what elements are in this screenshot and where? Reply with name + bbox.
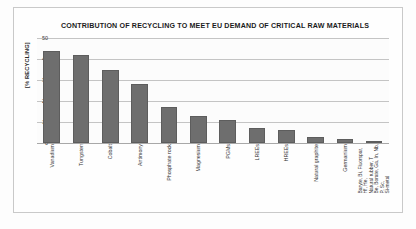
bar-slot <box>213 38 242 143</box>
bar-slot <box>330 38 359 143</box>
x-axis-labels: VanadiumTungstenCobaltAntimonyPhosphate … <box>37 144 389 226</box>
x-label-slot: Cobalt <box>96 144 125 226</box>
bar-slot <box>301 38 330 143</box>
bar-slot <box>360 38 389 143</box>
bar[interactable] <box>278 130 294 143</box>
x-tick-label: Natural graphite <box>313 144 319 182</box>
x-label-slot: Natural graphite <box>301 144 330 226</box>
plot-area: 01020304050 <box>37 38 389 143</box>
x-tick-label: Magnesium <box>195 144 201 171</box>
bar[interactable] <box>307 137 323 143</box>
bar[interactable] <box>249 128 265 143</box>
x-tick-label: Cobalt <box>107 144 113 159</box>
x-label-slot: Tungsten <box>66 144 95 226</box>
bar-slot <box>184 38 213 143</box>
x-label-slot: Antimony <box>125 144 154 226</box>
x-label-slot: Vanadium <box>37 144 66 226</box>
x-label-slot: PGMs <box>213 144 242 226</box>
x-label-slot: HREEs <box>272 144 301 226</box>
x-tick-label: Phosphate rock <box>166 144 172 181</box>
bar-slot <box>154 38 183 143</box>
x-tick-label: LREEs <box>254 144 260 161</box>
bar-slot <box>125 38 154 143</box>
x-tick-label: HREEs <box>283 144 289 161</box>
bar[interactable] <box>73 55 89 143</box>
bar-slot <box>96 38 125 143</box>
bar[interactable] <box>190 116 206 143</box>
x-label-slot: Phosphate rock <box>154 144 183 226</box>
x-tick-label: Germanium <box>342 144 348 172</box>
x-label-slot: Germanium <box>330 144 359 226</box>
chart-title: CONTRIBUTION OF RECYCLING TO MEET EU DEM… <box>30 22 400 31</box>
bar-series <box>37 38 389 143</box>
bar[interactable] <box>102 70 118 144</box>
bar-slot <box>272 38 301 143</box>
bar-slot <box>242 38 271 143</box>
bar-slot <box>37 38 66 143</box>
bar[interactable] <box>43 51 59 143</box>
bar[interactable] <box>337 139 353 143</box>
bar-slot <box>66 38 95 143</box>
x-tick-label: Vanadium <box>49 144 55 167</box>
chart-page: CONTRIBUTION OF RECYCLING TO MEET EU DEM… <box>0 0 416 229</box>
x-tick-label: Baryte, Bi, Fluorspar, Hf, He, Natural r… <box>358 144 390 193</box>
x-label-slot: Magnesium <box>184 144 213 226</box>
x-label-slot: Baryte, Bi, Fluorspar, Hf, He, Natural r… <box>360 144 389 226</box>
bar[interactable] <box>161 107 177 143</box>
x-tick-label: Tungsten <box>78 144 84 166</box>
bar[interactable] <box>366 141 382 143</box>
bar[interactable] <box>219 120 235 143</box>
x-tick-label: Antimony <box>137 144 143 166</box>
bar[interactable] <box>131 84 147 143</box>
x-tick-label: PGMs <box>225 144 231 159</box>
x-label-slot: LREEs <box>242 144 271 226</box>
